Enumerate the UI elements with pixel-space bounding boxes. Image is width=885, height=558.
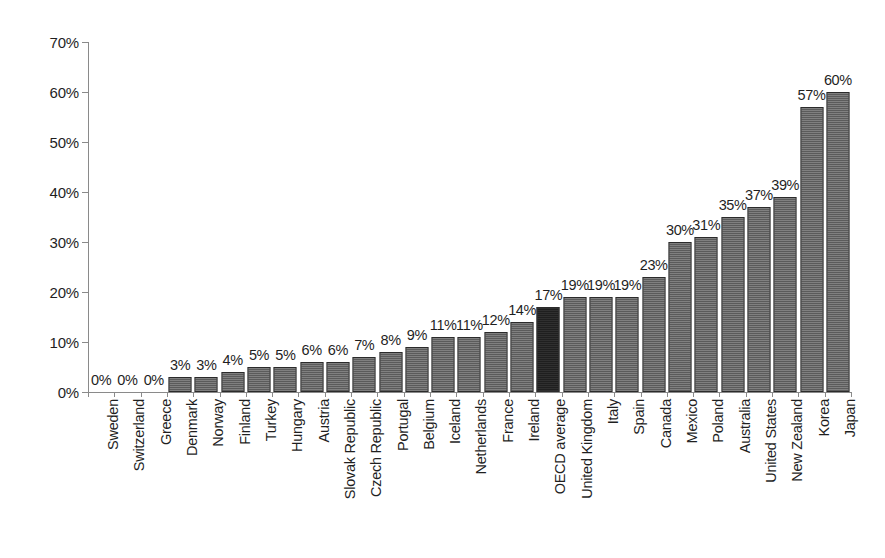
bar-group: 30% [667, 42, 693, 392]
x-axis-tick-mark [719, 392, 720, 397]
bar [195, 377, 218, 392]
x-axis-category-label: Slovak Republic [343, 399, 358, 499]
bar [484, 332, 507, 392]
bar-value-label: 12% [482, 313, 510, 328]
x-axis-tick-mark [220, 392, 221, 397]
bar-value-label: 23% [640, 258, 668, 273]
x-axis-tick-mark [114, 392, 115, 397]
x-axis-category-label: Denmark [185, 399, 200, 456]
bar-group: 60% [825, 42, 851, 392]
bar-group: 9% [404, 42, 430, 392]
bar [668, 242, 691, 392]
x-axis-tick-mark [141, 392, 142, 397]
x-axis-tick-mark [483, 392, 484, 397]
bar-group: 3% [167, 42, 193, 392]
bar [616, 297, 639, 392]
x-axis-category-label: Austria [317, 399, 332, 442]
x-axis-category-label: France [501, 399, 516, 443]
x-axis-tick-mark [825, 392, 826, 397]
bar [379, 352, 402, 392]
x-axis-tick-mark [325, 392, 326, 397]
bar [721, 217, 744, 392]
bar [221, 372, 244, 392]
bar-value-label: 57% [798, 88, 826, 103]
x-axis-category-label: Iceland [448, 399, 463, 444]
x-axis-category-label: Finland [238, 399, 253, 445]
bar-value-label: 9% [407, 328, 427, 343]
x-axis-category-label: Turkey [264, 399, 279, 441]
x-axis-line [88, 392, 851, 393]
bar [458, 337, 481, 392]
bar-group: 19% [562, 42, 588, 392]
y-axis-tick-label: 10% [50, 335, 79, 350]
bar-value-label: 4% [223, 353, 243, 368]
bar-value-label: 11% [430, 318, 457, 333]
y-axis-tick-label: 30% [50, 235, 79, 250]
bar-group: 35% [719, 42, 745, 392]
x-axis-category-label: Netherlands [474, 399, 489, 474]
bar-value-label: 37% [745, 188, 773, 203]
bar-group: 0% [114, 42, 140, 392]
bar [274, 367, 297, 392]
x-axis-tick-mark [456, 392, 457, 397]
x-axis-category-label: New Zealand [790, 399, 805, 482]
x-axis-tick-mark [641, 392, 642, 397]
bar [511, 322, 534, 392]
x-axis-category-label: Switzerland [132, 399, 147, 471]
x-axis-category-label: Sweden [106, 399, 121, 450]
bar-value-label: 3% [196, 358, 216, 373]
x-axis-tick-mark [851, 392, 852, 397]
x-axis-category-label: Portugal [396, 399, 411, 451]
x-axis-category-label: Belgium [422, 399, 437, 450]
bar-group: 11% [430, 42, 456, 392]
bar-value-label: 0% [144, 373, 164, 388]
x-axis-tick-mark [167, 392, 168, 397]
y-axis-tick-label: 70% [50, 35, 79, 50]
bar-group: 0% [141, 42, 167, 392]
bar-group: 39% [772, 42, 798, 392]
x-axis-category-label: Japan [843, 399, 858, 437]
x-axis-tick-mark [746, 392, 747, 397]
x-axis-category-label: Poland [711, 399, 726, 443]
bar-value-label: 8% [380, 333, 400, 348]
bar-group: 3% [193, 42, 219, 392]
bar-group: 17% [535, 42, 561, 392]
x-axis-tick-mark [298, 392, 299, 397]
bar-group: 11% [456, 42, 482, 392]
bar-group: 6% [298, 42, 324, 392]
bar-value-label: 6% [302, 343, 322, 358]
x-axis-category-label: Italy [606, 399, 621, 424]
x-axis-category-label: Czech Republic [369, 399, 384, 497]
bar-group: 31% [693, 42, 719, 392]
bar-value-label: 6% [328, 343, 348, 358]
x-axis-tick-mark [193, 392, 194, 397]
x-axis-category-label: Norway [211, 399, 226, 447]
x-axis-tick-mark [404, 392, 405, 397]
x-axis-tick-mark [535, 392, 536, 397]
y-axis-tick-label: 60% [50, 85, 79, 100]
bar-value-label: 5% [249, 348, 269, 363]
bar-value-label: 30% [666, 223, 694, 238]
x-axis-tick-mark [88, 392, 89, 397]
x-axis-tick-mark [272, 392, 273, 397]
bar-value-label: 19% [561, 278, 589, 293]
x-axis-tick-mark [351, 392, 352, 397]
bar-value-label: 7% [354, 338, 374, 353]
bar-group: 7% [351, 42, 377, 392]
bar [774, 197, 797, 392]
x-axis-tick-mark [693, 392, 694, 397]
x-axis-category-label: Australia [738, 399, 753, 453]
x-axis-category-label: Greece [159, 399, 174, 445]
x-axis-category-label: Ireland [527, 399, 542, 442]
x-axis-tick-mark [667, 392, 668, 397]
bar-group: 6% [325, 42, 351, 392]
bar-value-label: 11% [456, 318, 483, 333]
bar [642, 277, 665, 392]
x-axis-category-label: United Kingdom [580, 399, 595, 499]
bar [563, 297, 586, 392]
bar [353, 357, 376, 392]
y-axis-tick-label: 0% [58, 385, 79, 400]
x-axis-category-label: Spain [632, 399, 647, 435]
bar-value-label: 5% [275, 348, 295, 363]
x-axis-tick-mark [614, 392, 615, 397]
